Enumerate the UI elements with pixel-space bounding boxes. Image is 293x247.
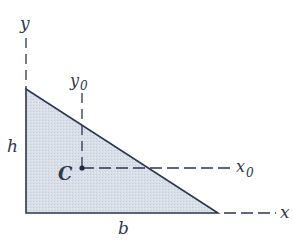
centroid-label: C bbox=[58, 163, 73, 184]
x0-subscript: 0 bbox=[246, 166, 254, 180]
height-label: h bbox=[7, 136, 18, 156]
centroid-point bbox=[79, 165, 84, 170]
y0-subscript: 0 bbox=[80, 79, 88, 93]
base-label: b bbox=[118, 218, 129, 238]
y-axis-label: y bbox=[19, 13, 30, 33]
x0-axis-label: x bbox=[236, 157, 245, 176]
y0-axis-label: y bbox=[69, 71, 80, 90]
diagram-svg: y x y 0 x 0 h b C bbox=[0, 0, 293, 247]
triangle-shape bbox=[26, 89, 218, 213]
x-axis-label: x bbox=[280, 202, 290, 222]
triangle-centroid-diagram: y x y 0 x 0 h b C bbox=[0, 0, 293, 247]
